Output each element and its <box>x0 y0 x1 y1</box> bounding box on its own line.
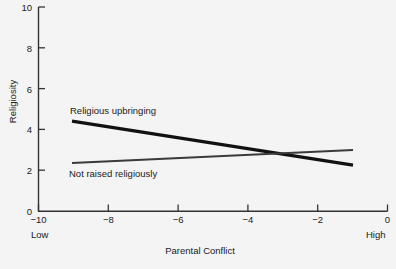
x-axis-ticks <box>39 205 388 212</box>
religiosity-parental-conflict-chart: 10 8 6 4 2 0 −10 −8 −6 −4 −2 0 Low High … <box>0 0 396 269</box>
y-axis-title: Religiosity <box>7 64 18 140</box>
y-tick-label-8: 8 <box>10 43 32 54</box>
series-annotation-religious-upbringing: Religious upbringing <box>70 105 156 116</box>
series-line-not-raised-religiously <box>72 150 353 163</box>
x-tick-label-0: 0 <box>375 214 396 225</box>
series-annotation-not-raised-religiously: Not raised religiously <box>69 168 157 179</box>
x-tick-label-neg10: −10 <box>26 214 52 225</box>
x-axis-high-label: High <box>366 229 386 240</box>
y-tick-label-2: 2 <box>10 165 32 176</box>
x-tick-label-neg8: −8 <box>95 214 121 225</box>
y-tick-label-10: 10 <box>10 2 32 13</box>
x-tick-label-neg6: −6 <box>165 214 191 225</box>
x-tick-label-neg2: −2 <box>305 214 331 225</box>
x-axis-title: Parental Conflict <box>130 245 270 256</box>
chart-canvas <box>0 0 396 269</box>
y-axis-ticks <box>39 7 46 170</box>
series-line-religious-upbringing <box>72 121 353 165</box>
x-tick-label-neg4: −4 <box>235 214 261 225</box>
x-axis-low-label: Low <box>31 229 48 240</box>
